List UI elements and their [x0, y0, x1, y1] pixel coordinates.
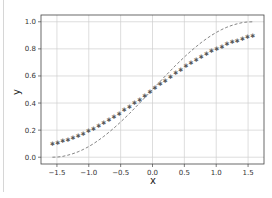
y-tick-label: 0.6: [25, 72, 37, 80]
y-tick-label: 0.2: [25, 127, 36, 135]
y-tick-label: 0.0: [25, 154, 36, 162]
x-tick-label: −1.0: [80, 169, 97, 177]
x-tick-label: 1.0: [211, 169, 222, 177]
y-tick-label: 0.4: [25, 100, 37, 108]
x-tick-label: −0.5: [112, 169, 129, 177]
y-tick-label: 1.0: [25, 18, 36, 26]
x-axis-label: x: [150, 175, 156, 186]
x-tick-label: 0.5: [179, 169, 190, 177]
y-axis-ticks: 0.00.20.40.60.81.0: [25, 18, 41, 161]
x-tick-label: −1.5: [48, 169, 65, 177]
x-tick-label: 1.5: [243, 169, 254, 177]
star-marker: ∗: [250, 32, 256, 40]
y-axis-label: y: [11, 89, 22, 95]
line-chart: ∗∗∗∗∗∗∗∗∗∗∗∗∗∗∗∗∗∗∗∗∗∗∗∗∗∗∗∗∗∗∗∗∗∗∗∗∗∗∗∗…: [0, 0, 272, 198]
y-tick-label: 0.8: [25, 45, 36, 53]
